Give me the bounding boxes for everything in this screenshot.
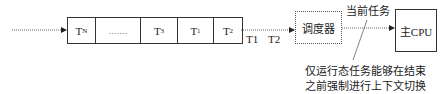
- queue-cell-t1: T1: [178, 18, 214, 43]
- scheduler-label: 调度器: [302, 20, 335, 36]
- flow-label-t1: T1: [246, 33, 258, 45]
- queue-cell-t3: T3: [141, 18, 178, 43]
- annotation-line-1: 仅运行态任务能够在结束: [305, 62, 426, 78]
- queue-cell-t2: T2: [214, 18, 242, 43]
- annotation-pointer-line: [353, 20, 367, 60]
- annotation-line-2: 之前强制进行上下文切换: [305, 77, 426, 93]
- flow-label-t2: T2: [268, 33, 280, 45]
- cpu-label: 主CPU: [400, 23, 432, 39]
- scheduler-box: 调度器: [295, 11, 342, 44]
- task-queue: TN ....... T3 T1 T2: [67, 17, 243, 44]
- current-task-label: 当前任务: [346, 2, 390, 18]
- queue-cell-tn: TN: [68, 18, 96, 43]
- cpu-box: 主CPU: [395, 9, 437, 52]
- queue-cell-ellipsis: .......: [96, 18, 141, 43]
